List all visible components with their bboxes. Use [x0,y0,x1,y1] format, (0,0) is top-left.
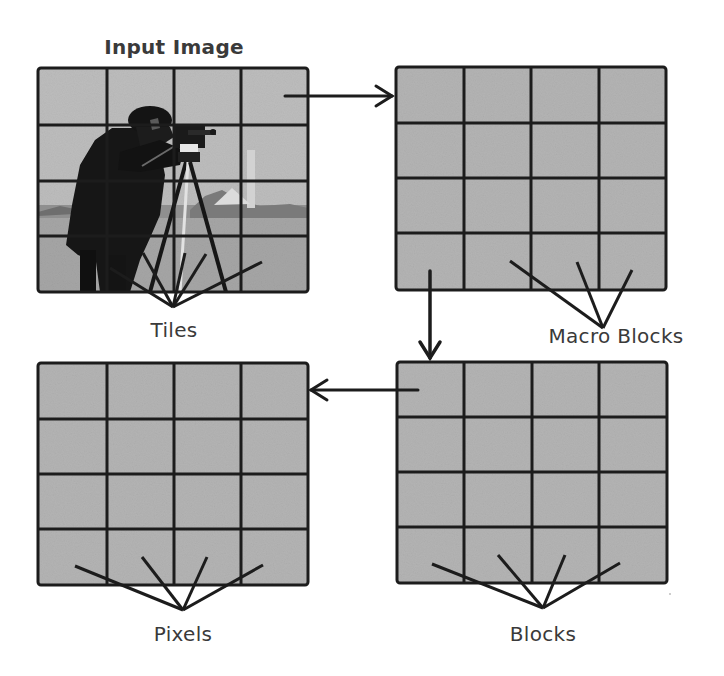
macro-blocks-grid [396,67,666,328]
speck [669,593,671,595]
input-image-title: Input Image [104,35,244,59]
blocks-label: Blocks [510,622,576,646]
blocks-grid [397,362,667,608]
pixels-grid [38,363,308,610]
pixels-label: Pixels [154,622,212,646]
tiles-label: Tiles [151,318,198,342]
partition-diagram: Input Image Tiles Macro Blocks Pixels Bl… [0,0,724,676]
input-image-grid [38,68,308,307]
macro-blocks-label: Macro Blocks [549,324,684,348]
